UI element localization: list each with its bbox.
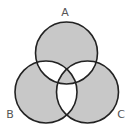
venn-diagram: A B C — [0, 0, 135, 131]
label-b: B — [6, 108, 14, 121]
label-c: C — [117, 108, 125, 121]
label-a: A — [61, 6, 69, 19]
